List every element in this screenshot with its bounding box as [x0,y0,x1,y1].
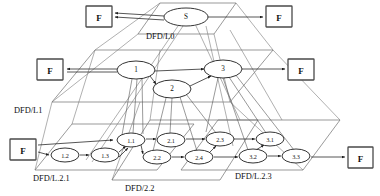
plane-label-L1: DFD/L1 [14,106,42,115]
process-node-S[interactable]: S [164,8,208,26]
process-node-3[interactable]: 3 [204,60,242,78]
process-node-3-2-label: 3.2 [249,153,257,160]
process-node-3-2[interactable]: 3.2 [239,149,267,163]
external-F-bottom-right[interactable]: F [348,147,373,168]
external-F-bottom-right-label: F [358,154,364,164]
process-node-2-1-label: 2.1 [167,137,175,144]
process-node-1-1[interactable]: 1.1 [117,133,145,147]
plane-label-L2-3: DFD/L.2.3 [235,172,272,181]
process-node-1-3-label: 1.3 [101,152,109,159]
process-node-3-1-label: 3.1 [266,136,274,143]
process-node-3-label: 3 [221,65,225,73]
external-F-mid-right[interactable]: F [288,59,314,80]
plane-label-L2-1: DFD/L.2.1 [33,174,70,183]
external-F-mid-left-label: F [47,66,53,76]
process-node-1-2-label: 1.2 [61,152,69,159]
process-node-1-3[interactable]: 1.3 [91,148,119,162]
process-node-1-1-label: 1.1 [127,137,135,144]
process-node-2-3[interactable]: 2.3 [206,132,234,146]
process-node-2-4[interactable]: 2.4 [185,150,213,164]
process-node-3-3-label: 3.3 [292,153,300,160]
process-node-S-label: S [184,13,188,21]
external-F-top-right[interactable]: F [266,6,292,27]
external-F-top-right-label: F [276,13,282,23]
process-node-2-4-label: 2.4 [195,154,203,161]
dfd-diagram-canvas: F F F F F F S 1 [0,0,380,196]
process-node-2[interactable]: 2 [153,80,191,98]
process-node-1[interactable]: 1 [117,61,155,79]
external-F-bottom-left[interactable]: F [10,139,36,160]
process-node-2-label: 2 [170,85,174,93]
process-node-2-2[interactable]: 2.2 [143,150,171,164]
process-node-2-2-label: 2.2 [153,154,161,161]
external-F-mid-right-label: F [298,66,304,76]
process-node-2-1[interactable]: 2.1 [157,133,185,147]
process-node-1-2[interactable]: 1.2 [51,148,79,162]
plane-label-L2-2: DFD/2.2 [125,184,155,193]
process-node-3-1[interactable]: 3.1 [256,132,284,146]
external-F-top-left-label: F [96,13,102,23]
external-F-bottom-left-label: F [20,146,26,156]
process-node-1-label: 1 [134,66,138,74]
external-F-top-left[interactable]: F [86,6,112,27]
plane-label-L0: DFD/L0 [146,32,174,41]
process-node-2-3-label: 2.3 [216,136,224,143]
external-F-mid-left[interactable]: F [37,59,63,80]
process-node-3-3[interactable]: 3.3 [282,149,310,163]
